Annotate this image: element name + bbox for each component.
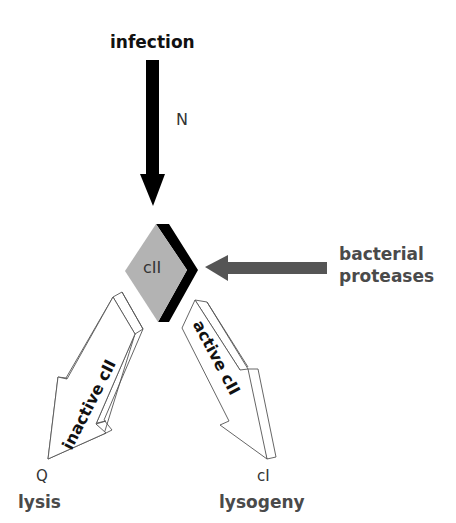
lysogeny-label: lysogeny [219, 494, 305, 511]
proteases-label-line2: proteases [339, 268, 434, 285]
proteases-arrow [205, 255, 327, 281]
cii-label: cII [143, 260, 161, 276]
lysis-label: lysis [18, 494, 61, 511]
infection-arrow [140, 60, 165, 206]
q-gene-label: Q [36, 469, 48, 484]
n-gene-label: N [176, 112, 188, 128]
infection-title: infection [110, 34, 195, 51]
ci-gene-label: cI [257, 469, 270, 484]
proteases-label-line1: bacterial [339, 246, 424, 263]
cii-diamond [125, 224, 198, 322]
